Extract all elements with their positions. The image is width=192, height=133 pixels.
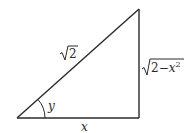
hypotenuse-label: 2 — [60, 46, 78, 61]
vertical-side-label: 2−x2 — [142, 59, 184, 75]
base-label: x — [81, 120, 88, 133]
vertical-side-radicand: 2−x2 — [151, 60, 181, 75]
angle-label: y — [47, 99, 55, 113]
angle-arc — [38, 100, 45, 119]
hypotenuse-radicand: 2 — [69, 47, 77, 61]
hypotenuse — [17, 9, 139, 118]
right-triangle-diagram: 2 2−x2 x y — [0, 0, 192, 133]
